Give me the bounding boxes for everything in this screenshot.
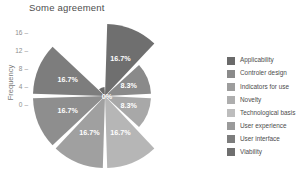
slice-percent-label: 8.3%: [121, 81, 138, 90]
legend-item[interactable]: Indicators for use: [227, 80, 305, 93]
legend-swatch-icon: [227, 57, 235, 65]
legend-item-label: Technological basis: [240, 110, 295, 116]
slice-percent-label: 16.7%: [110, 54, 131, 63]
y-tick-0: 0–: [12, 101, 28, 108]
legend-item-label: Controler design: [240, 70, 287, 76]
slice-percent-label: 16.7%: [58, 106, 79, 115]
legend-swatch-icon: [227, 83, 235, 91]
legend-item[interactable]: Novelty: [227, 93, 305, 106]
legend-item-label: Viability: [240, 149, 262, 155]
legend-swatch-icon: [227, 96, 235, 104]
legend-item[interactable]: Applicability: [227, 54, 305, 67]
pie-slice[interactable]: [33, 47, 105, 96]
legend-item[interactable]: User interface: [227, 133, 305, 146]
slice-percent-label: 16.7%: [58, 75, 79, 84]
legend-item-label: Indicators for use: [240, 84, 289, 90]
y-tick-value: 16: [15, 29, 22, 36]
legend-item[interactable]: User experience: [227, 119, 305, 132]
slice-percent-label: 16.7%: [110, 128, 131, 137]
y-tick-value: 0: [19, 101, 23, 108]
slice-percent-label: 8.3%: [121, 101, 138, 110]
legend-swatch-icon: [227, 148, 235, 156]
y-tick-mark: –: [24, 83, 28, 90]
y-tick-12: 12–: [12, 47, 28, 54]
legend-item[interactable]: Technological basis: [227, 106, 305, 119]
y-tick-value: 12: [15, 47, 22, 54]
y-tick-mark: –: [24, 47, 28, 54]
center-percent-label: 0%: [102, 92, 113, 101]
y-tick-16: 16–: [12, 29, 28, 36]
y-tick-value: 8: [19, 65, 23, 72]
legend-swatch-icon: [227, 135, 235, 143]
legend-item-label: User interface: [240, 136, 280, 142]
legend-item-label: Novelty: [240, 97, 261, 103]
polar-area-chart: 16.7%8.3%8.3%16.7%16.7%16.7%16.7%0%: [33, 18, 223, 178]
chart-canvas: Some agreement Frequency 16–12–8–4–0– 16…: [0, 0, 305, 193]
y-tick-value: 4: [19, 83, 23, 90]
legend-item-label: User experience: [240, 123, 287, 129]
legend-item-label: Applicability: [240, 57, 274, 63]
legend-swatch-icon: [227, 109, 235, 117]
legend-item[interactable]: Viability: [227, 146, 305, 159]
slice-percent-label: 16.7%: [79, 128, 100, 137]
y-tick-mark: –: [24, 101, 28, 108]
y-tick-8: 8–: [12, 65, 28, 72]
y-tick-mark: –: [24, 29, 28, 36]
chart-legend: ApplicabilityControler designIndicators …: [227, 54, 305, 159]
y-tick-4: 4–: [12, 83, 28, 90]
y-tick-mark: –: [24, 65, 28, 72]
legend-item[interactable]: Controler design: [227, 67, 305, 80]
page-title: Some agreement: [29, 2, 105, 13]
legend-swatch-icon: [227, 70, 235, 78]
legend-swatch-icon: [227, 122, 235, 130]
